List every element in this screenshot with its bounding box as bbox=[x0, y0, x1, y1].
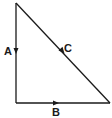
edge-c-hypotenuse bbox=[16, 3, 110, 103]
vector-label-c: C bbox=[64, 42, 72, 54]
arrow-b-right-icon bbox=[53, 101, 59, 106]
vector-label-a: A bbox=[4, 45, 12, 57]
vector-triangle-diagram: A B C bbox=[0, 0, 112, 118]
arrow-a-down-icon bbox=[14, 48, 19, 54]
vector-label-b: B bbox=[52, 106, 60, 118]
